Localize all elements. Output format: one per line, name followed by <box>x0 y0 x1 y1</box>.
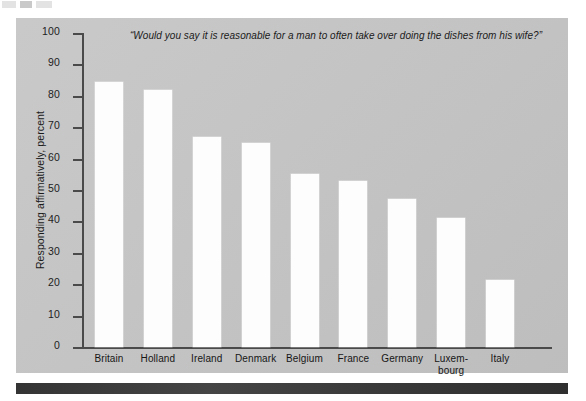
y-axis-tick-label-80: 80 <box>48 88 60 100</box>
x-axis-label-line2: bourg <box>416 365 486 377</box>
bar-france <box>339 181 367 347</box>
y-axis-tick-40: 40 <box>73 221 82 223</box>
y-axis-tick-label-70: 70 <box>48 119 60 131</box>
y-axis-tick-label-40: 40 <box>48 213 60 225</box>
y-axis-tick-label-50: 50 <box>48 182 60 194</box>
page-artifact-mark-c <box>36 1 52 8</box>
y-axis-line <box>82 33 84 347</box>
y-axis-tick-label-100: 100 <box>42 25 60 37</box>
page-artifact-mark-a <box>2 1 16 8</box>
y-axis-tick-60: 60 <box>73 159 82 161</box>
y-axis-tick-90: 90 <box>73 64 82 66</box>
bar-belgium <box>291 174 319 347</box>
bar-holland <box>144 90 172 347</box>
chart-figure: “Would you say it is reasonable for a ma… <box>16 18 568 373</box>
y-axis-tick-label-60: 60 <box>48 151 60 163</box>
bar-britain <box>95 82 123 347</box>
bottom-rule <box>16 383 568 394</box>
bar-denmark <box>242 143 270 347</box>
y-axis-tick-label-0: 0 <box>54 339 60 351</box>
bar-germany <box>388 199 416 347</box>
bar-luxem <box>437 218 465 347</box>
y-axis-tick-label-90: 90 <box>48 56 60 68</box>
y-axis-tick-0: 0 <box>73 347 82 349</box>
y-axis-tick-20: 20 <box>73 284 82 286</box>
y-axis-label: Responding affirmatively, percent <box>34 111 46 269</box>
page-artifact-mark-b <box>20 1 32 8</box>
y-axis-tick-80: 80 <box>73 96 82 98</box>
x-axis-line <box>82 347 552 349</box>
y-axis-tick-30: 30 <box>73 253 82 255</box>
y-axis-tick-10: 10 <box>73 316 82 318</box>
y-axis-tick-label-10: 10 <box>48 308 60 320</box>
y-axis-tick-100: 100 <box>73 33 82 35</box>
y-axis-tick-70: 70 <box>73 127 82 129</box>
bar-italy <box>486 280 514 348</box>
plot-area: 0102030405060708090100 BritainHollandIre… <box>82 33 552 347</box>
y-axis-tick-label-30: 30 <box>48 245 60 257</box>
y-axis-tick-50: 50 <box>73 190 82 192</box>
x-axis-label-line1: Italy <box>465 353 535 365</box>
page-artifact-marks <box>2 1 58 10</box>
x-axis-label-italy: Italy <box>465 353 535 365</box>
bar-ireland <box>193 137 221 347</box>
y-axis-tick-label-20: 20 <box>48 276 60 288</box>
